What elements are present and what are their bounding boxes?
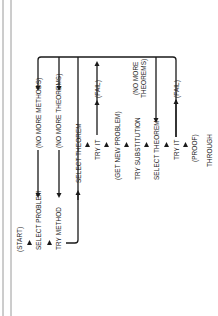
arrow-icon xyxy=(85,142,90,147)
node-select-theorem-1: SELECT THEOREM xyxy=(75,123,82,183)
arrow-up-icon xyxy=(95,100,100,105)
node-select-theorem-2: SELECT THEOREM xyxy=(153,120,160,180)
arrow-icon xyxy=(164,142,169,147)
node-try-it-1: TRY IT xyxy=(94,139,101,160)
flowchart-diagram: (START) SELECT PROBLEM TRY METHOD SELECT… xyxy=(0,0,218,316)
branch-no-more-methods: (NO MORE METHODS) xyxy=(35,78,43,148)
branch-fail-1: (FAIL) xyxy=(94,80,102,98)
arrow-up-icon xyxy=(76,190,81,195)
arrow-up-icon xyxy=(174,99,179,104)
branch-no-more-theorems-2-line1: (NO MORE xyxy=(132,62,140,95)
node-start: (START) xyxy=(16,227,24,252)
arrow-icon xyxy=(124,142,129,147)
node-get-new-problem: (GET NEW PROBLEM) xyxy=(114,111,122,180)
arrow-icon xyxy=(144,142,149,147)
node-try-it-2: TRY IT xyxy=(173,139,180,160)
arrow-icon xyxy=(104,142,109,147)
branch-no-more-theorems-2-line2: THEOREMS) xyxy=(140,59,148,98)
node-try-substitution: TRY SUBSTITUTION xyxy=(134,117,141,180)
arrow-down-icon xyxy=(57,193,62,198)
arrow-icon xyxy=(27,240,32,245)
node-through: THROUGH xyxy=(206,134,213,167)
node-try-method: TRY METHOD xyxy=(55,207,62,250)
arrow-icon xyxy=(47,240,52,245)
node-select-problem: SELECT PROBLEM xyxy=(35,191,42,250)
try-method-to-select-theorem xyxy=(66,192,78,243)
branch-no-more-theorems-1: (NO MORE THEOREMS) xyxy=(55,74,63,148)
branch-fail-2: (FAIL) xyxy=(173,80,181,98)
arrow-up-icon xyxy=(95,61,100,66)
node-proof: (PROOF) xyxy=(191,134,199,162)
arrow-icon xyxy=(183,142,188,147)
